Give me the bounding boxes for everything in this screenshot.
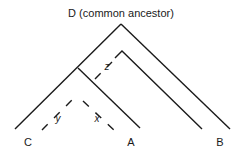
- branch-root-to-b: [121, 24, 230, 129]
- branch-root-to-c: [15, 24, 121, 129]
- leaf-label-a: A: [127, 136, 135, 148]
- root-label: D (common ancestor): [68, 7, 174, 19]
- leaf-label-b: B: [216, 136, 223, 148]
- branch-node-to-a: [78, 68, 140, 128]
- branch-label-z: z: [104, 61, 110, 72]
- leaf-label-c: C: [24, 136, 32, 148]
- branch-label-x: x: [94, 113, 101, 124]
- phylogenetic-tree-diagram: D (common ancestor) z y x C A B: [0, 0, 241, 155]
- branch-label-y: y: [55, 113, 62, 124]
